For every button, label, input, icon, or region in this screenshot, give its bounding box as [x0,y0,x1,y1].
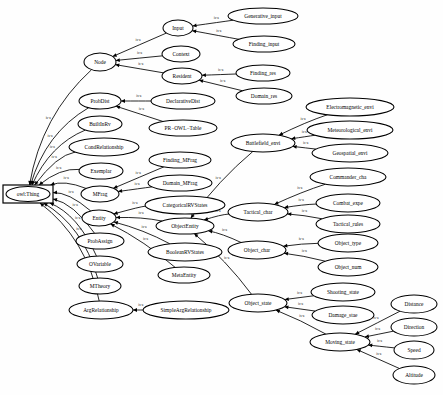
graph-node-generative-input[interactable]: Generative_input [228,8,298,24]
edge-is-a: is-a [116,51,163,62]
graph-node-domain-mfrag[interactable]: Domain_MFrag [148,175,212,191]
graph-node-combat-expe[interactable]: Combat_expe [316,194,380,212]
edge-is-a: is-a [39,166,79,185]
edge-is-a: is-a [115,62,163,73]
graph-node-direction[interactable]: Direction [391,318,437,336]
graph-node-meteorological[interactable]: Meteorological_envi [307,121,393,139]
node-shape-ellipse [228,203,288,221]
graph-node-booleanrvstate[interactable]: BooleanRVStates [148,243,222,261]
edge-is-a: is-a [284,198,316,209]
graph-node-finding-input[interactable]: Finding_input [233,36,295,52]
edge-label: is-a [135,38,141,42]
arrow-head-icon [53,198,57,202]
graph-node-speed[interactable]: Speed [394,341,434,359]
graph-node-owl-thing[interactable]: owl:Thing [3,185,53,203]
edge-label: is-a [298,302,304,306]
edge-label: is-a [56,166,62,170]
edge-label: is-a [46,116,52,120]
graph-node-declarativedist[interactable]: DeclarativeDist [151,93,215,109]
edge-is-a: is-a [192,29,239,40]
graph-node-exemplar[interactable]: Exemplar [79,163,123,179]
edge-is-a: is-a [116,211,162,221]
node-shape-ellipse [156,218,214,234]
graph-node-geospatial[interactable]: Geospatial_envi [312,144,388,162]
graph-node-pr-owl-table[interactable]: PR−OWL−Table [149,120,217,136]
edge-is-a: is-a [293,141,316,149]
node-shape-ellipse [310,333,370,351]
graph-node-tactical-char[interactable]: Tactical_char [228,203,288,221]
edge-label: is-a [137,51,143,55]
edge-is-a: is-a [51,176,87,188]
graph-node-condrelationship[interactable]: CondRelationship [69,138,139,156]
edge-is-a: is-a [121,94,151,103]
graph-node-objectentity[interactable]: ObjectEntity [156,218,214,234]
graph-node-node[interactable]: Node [84,53,116,71]
edge-is-a: is-a [284,249,325,261]
edge-label: is-a [138,211,144,215]
edge-label: is-a [138,303,144,307]
graph-node-battlefield-envi[interactable]: Battlefield_envi [231,134,295,152]
graph-node-finding-res[interactable]: Finding_res [236,65,290,81]
edge-is-a: is-a [113,33,167,57]
edge-is-a: is-a [114,201,146,214]
graph-node-finding-mfrag[interactable]: Finding_MFrag [149,152,211,168]
graph-node-damage-stae[interactable]: Damage_stae [312,306,374,324]
graph-node-object-type[interactable]: Object_type [318,234,378,252]
graph-node-entity[interactable]: Entity [82,210,116,226]
graph-node-tactical-rules[interactable]: Tactical_rules [316,215,380,233]
graph-node-commander-cha[interactable]: Commander_cha [310,168,386,186]
edge-label: is-a [377,339,383,343]
graph-node-object-state[interactable]: Object_state [229,294,287,312]
graph-node-probassign[interactable]: ProbAssign [76,233,124,249]
graph-node-domain-res[interactable]: Domain_res [236,88,292,104]
node-shape-ellipse [149,120,217,136]
edge-label: is-a [75,216,81,220]
edge-label: is-a [214,16,220,20]
edge-label: is-a [136,171,142,175]
node-shape-ellipse [148,243,222,261]
edge-is-a: is-a [284,302,315,311]
edge-label: is-a [52,155,58,159]
graph-node-metaentity[interactable]: MetaEntity [158,267,210,283]
edge-label: is-a [64,176,70,180]
graph-node-shooting-state[interactable]: Shooting_state [311,283,375,301]
node-shape-ellipse [231,134,295,152]
graph-node-builtinrv[interactable]: BuiltInRv [78,116,122,132]
edge-label: is-a [216,29,222,33]
graph-node-mtheory[interactable]: MTheory [79,278,121,294]
node-shape-ellipse [229,294,287,312]
node-shape-ellipse [145,196,225,214]
edge-label: is-a [143,237,149,241]
graph-node-moving-state[interactable]: Moving_state [310,333,370,351]
graph-node-ovariable[interactable]: OVariable [77,256,123,272]
graph-node-object-char[interactable]: Object_char [228,241,286,259]
graph-node-electromagnetic[interactable]: Electromagnetic_envi [306,98,394,116]
edge-label: is-a [302,209,308,213]
node-shape-ellipse [84,53,116,71]
edge-label: is-a [141,225,147,229]
node-shape-ellipse [76,233,124,249]
node-shape-ellipse [77,256,123,272]
edge-label: is-a [224,256,230,260]
node-shape-ellipse [163,20,193,36]
node-shape-ellipse [79,93,121,109]
graph-node-resident[interactable]: Resident [162,68,202,84]
edge-label: is-a [299,198,305,202]
graph-node-distance[interactable]: Distance [391,295,437,313]
graph-node-input[interactable]: Input [163,20,193,36]
graph-node-argrelationship[interactable]: ArgRelationship [69,301,133,319]
graph-node-context[interactable]: Context [162,46,200,62]
edge-is-a: is-a [283,237,318,247]
graph-node-altitude[interactable]: Altitude [393,366,435,384]
graph-node-mfrag[interactable]: MFrag [81,186,119,202]
graph-node-probdist[interactable]: ProbDist [79,93,121,109]
graph-node-object-num[interactable]: Object_num [318,258,378,276]
node-shape-ellipse [148,175,212,191]
node-shape-ellipse [69,138,139,156]
edge-label: is-a [302,249,308,253]
graph-node-categoricalrvstate[interactable]: CategoricalRVStates [145,196,225,214]
edge-is-a: is-a [118,182,152,193]
node-shape-ellipse [162,68,202,84]
edge-is-a: is-a [208,228,241,242]
graph-node-simplearg[interactable]: SimpleArgRelationship [143,301,229,319]
